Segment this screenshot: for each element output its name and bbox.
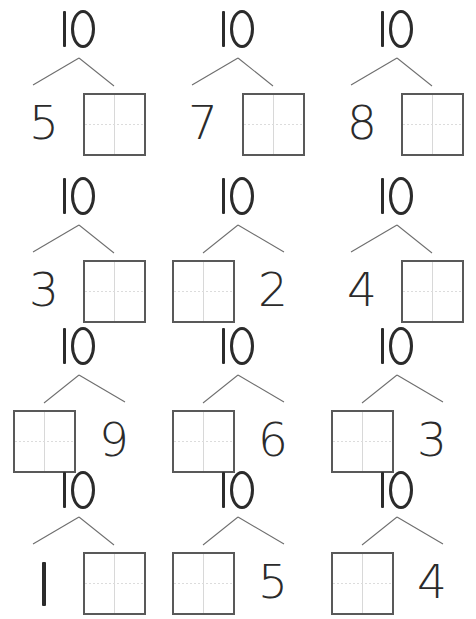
box-guide-horizontal-icon <box>85 124 144 125</box>
parts-container: 5 <box>0 86 158 162</box>
part-right: 5 <box>238 549 308 617</box>
digit-one-stroke <box>381 328 384 364</box>
part-left[interactable] <box>168 407 238 475</box>
part-number-value: 5 <box>258 558 288 609</box>
answer-box[interactable] <box>242 93 305 156</box>
box-guide-horizontal-icon <box>174 441 233 442</box>
whole-value-10 <box>159 10 317 48</box>
digit-one-stroke <box>381 11 384 47</box>
part-number-value: 2 <box>258 266 288 317</box>
answer-box[interactable] <box>83 260 146 323</box>
part-left: 3 <box>9 257 79 325</box>
problem-row: 3 <box>0 167 476 317</box>
part-number-value: 5 <box>29 99 59 150</box>
whole-value-10 <box>0 471 158 509</box>
whole-value-10 <box>318 10 476 48</box>
part-left: 8 <box>327 90 397 158</box>
answer-box[interactable] <box>331 410 394 473</box>
part-right[interactable] <box>397 257 467 325</box>
part-left: 5 <box>9 90 79 158</box>
number-bond-problem: 3 <box>318 317 476 467</box>
box-guide-horizontal-icon <box>333 583 392 584</box>
number-bond-problem: 4 <box>318 467 476 599</box>
digit-one-stroke <box>222 11 225 47</box>
whole-value-10 <box>0 327 158 365</box>
number-bond-problem: 5 <box>0 0 158 167</box>
problem-row: 5 7 <box>0 0 476 167</box>
digit-zero-oval <box>389 10 413 48</box>
number-bond-problem: 4 <box>318 167 476 317</box>
part-left[interactable] <box>168 257 238 325</box>
parts-container: 4 <box>318 545 476 619</box>
number-bond-problem: 5 <box>159 467 317 599</box>
part-number-value: 6 <box>258 416 288 467</box>
part-left <box>9 549 79 617</box>
part-right: 6 <box>238 407 308 475</box>
part-right[interactable] <box>79 549 149 617</box>
box-guide-horizontal-icon <box>85 583 144 584</box>
digit-one-stroke <box>222 328 225 364</box>
part-number-value: 7 <box>188 99 218 150</box>
box-guide-horizontal-icon <box>174 583 233 584</box>
part-left[interactable] <box>327 407 397 475</box>
digit-one-stroke <box>63 472 66 508</box>
part-number-value: 9 <box>99 416 129 467</box>
part-right: 4 <box>397 549 467 617</box>
digit-zero-oval <box>389 471 413 509</box>
box-guide-horizontal-icon <box>174 291 233 292</box>
number-bond-problem: 8 <box>318 0 476 167</box>
digit-zero-oval <box>71 177 95 215</box>
whole-value-10 <box>159 471 317 509</box>
answer-box[interactable] <box>172 410 235 473</box>
answer-box[interactable] <box>401 260 464 323</box>
digit-one-stroke <box>222 472 225 508</box>
part-number-value: 4 <box>417 558 447 609</box>
part-right[interactable] <box>79 257 149 325</box>
problem-row: 5 4 <box>0 467 476 599</box>
part-right[interactable] <box>397 90 467 158</box>
digit-zero-oval <box>230 471 254 509</box>
box-guide-horizontal-icon <box>403 124 462 125</box>
whole-value-10 <box>318 177 476 215</box>
digit-zero-oval <box>389 327 413 365</box>
digit-zero-oval <box>230 10 254 48</box>
whole-value-10 <box>318 327 476 365</box>
whole-value-10 <box>0 177 158 215</box>
part-left[interactable] <box>327 549 397 617</box>
digit-one-stroke <box>63 178 66 214</box>
parts-container: 8 <box>318 86 476 162</box>
digit-one-stroke <box>222 178 225 214</box>
digit-one-stroke <box>63 11 66 47</box>
part-left[interactable] <box>9 407 79 475</box>
part-right: 3 <box>397 407 467 475</box>
part-right[interactable] <box>238 90 308 158</box>
box-guide-horizontal-icon <box>333 441 392 442</box>
parts-container <box>0 545 158 619</box>
number-bond-problem: 2 <box>159 167 317 317</box>
answer-box[interactable] <box>172 552 235 615</box>
digit-one-stroke <box>42 562 46 606</box>
part-left[interactable] <box>168 549 238 617</box>
whole-value-10 <box>318 471 476 509</box>
answer-box[interactable] <box>83 93 146 156</box>
box-guide-horizontal-icon <box>85 291 144 292</box>
number-bond-problem: 9 <box>0 317 158 467</box>
problem-row: 9 6 <box>0 317 476 467</box>
answer-box[interactable] <box>83 552 146 615</box>
answer-box[interactable] <box>172 260 235 323</box>
part-right[interactable] <box>79 90 149 158</box>
digit-one-stroke <box>63 328 66 364</box>
answer-box[interactable] <box>401 93 464 156</box>
part-right: 9 <box>79 407 149 475</box>
part-right: 2 <box>238 257 308 325</box>
box-guide-horizontal-icon <box>244 124 303 125</box>
part-left: 7 <box>168 90 238 158</box>
answer-box[interactable] <box>331 552 394 615</box>
part-number-value: 3 <box>29 266 59 317</box>
answer-box[interactable] <box>13 410 76 473</box>
parts-container: 7 <box>159 86 317 162</box>
part-number-value <box>42 556 46 610</box>
part-left: 4 <box>327 257 397 325</box>
part-number-value: 3 <box>417 416 447 467</box>
whole-value-10 <box>159 177 317 215</box>
